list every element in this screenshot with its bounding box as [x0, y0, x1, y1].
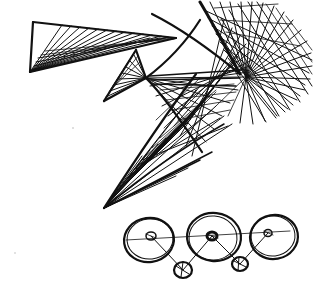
paper-speck: [14, 252, 16, 254]
paper-speck: [72, 127, 74, 129]
hand-drawn-sketch: [0, 0, 313, 287]
sketch-canvas: [0, 0, 313, 287]
